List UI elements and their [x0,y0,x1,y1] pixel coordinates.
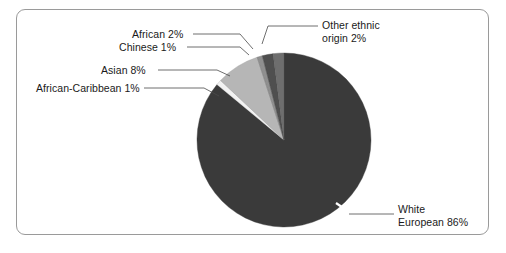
leader-line-asian [158,70,230,76]
label-african: African 2% [132,28,183,41]
label-asian: Asian 8% [101,64,146,77]
leader-line-other-ethnic [262,26,318,44]
label-white-european-line2: European 86% [398,216,468,228]
label-chinese: Chinese 1% [119,41,176,54]
label-other-ethnic-origin: Other ethnic origin 2% [322,19,412,44]
white-european-callout-stub [336,203,352,214]
label-other-ethnic-origin-line1: Other ethnic [322,19,380,31]
label-other-ethnic-origin-line2: origin 2% [322,32,366,44]
label-african-caribbean: African-Caribbean 1% [36,82,140,95]
label-white-european-line1: White [398,203,425,215]
pie-chart-figure: African-Caribbean 1% Asian 8% Chinese 1%… [0,0,506,253]
leader-line-chinese [187,47,249,55]
leader-line-african-caribbean [144,88,219,96]
label-white-european: White European 86% [398,203,484,228]
